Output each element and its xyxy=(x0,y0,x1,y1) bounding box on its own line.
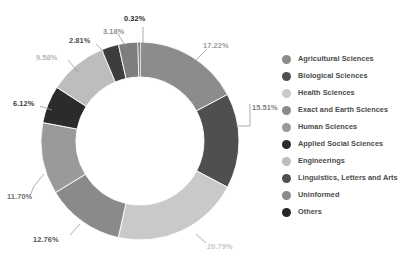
slice-label-health-sciences: 20.79% xyxy=(207,243,233,250)
leader-line-biological xyxy=(236,104,250,126)
slice-label-engineerings: 9.58% xyxy=(36,54,57,61)
legend-swatch-icon xyxy=(282,157,291,166)
donut-slice[interactable] xyxy=(138,42,140,77)
slice-label-human-sciences: 11.70% xyxy=(7,193,32,200)
legend-swatch-icon xyxy=(282,140,291,149)
legend-item-label: Agricultural Sciences xyxy=(298,54,374,64)
legend-item[interactable]: Health Sciences xyxy=(282,88,407,98)
slice-label-exact-and-earth-sciences: 12.76% xyxy=(33,236,59,243)
slice-label-others: 0.32% xyxy=(124,15,145,22)
legend-item-label: Health Sciences xyxy=(298,88,355,98)
donut-plot-area: 17.22% 15.51% 20.79% 12.76% 11.70% 6.12%… xyxy=(0,0,262,273)
slice-label-linguistics-letters-and-arts: 2.81% xyxy=(69,37,90,44)
legend-swatch-icon xyxy=(282,89,291,98)
slice-label-agricultural-sciences: 17.22% xyxy=(203,42,229,49)
legend-swatch-icon xyxy=(282,123,291,132)
legend-item[interactable]: Agricultural Sciences xyxy=(282,54,407,64)
legend-item[interactable]: Uninformed xyxy=(282,190,407,200)
legend-item[interactable]: Biological Sciences xyxy=(282,71,407,81)
legend-item-label: Linguistics, Letters and Arts xyxy=(298,173,398,183)
leader-line-health xyxy=(196,234,206,243)
legend-item[interactable]: Human Sciences xyxy=(282,122,407,132)
legend-item-label: Human Sciences xyxy=(298,122,357,132)
chart-legend: Agricultural SciencesBiological Sciences… xyxy=(282,54,407,224)
legend-item-label: Others xyxy=(298,207,322,217)
leader-line-exact-earth xyxy=(70,224,80,235)
legend-item[interactable]: Others xyxy=(282,207,407,217)
slice-label-uninformed: 3.18% xyxy=(103,28,124,35)
legend-swatch-icon xyxy=(282,106,291,115)
legend-item[interactable]: Linguistics, Letters and Arts xyxy=(282,173,407,183)
donut-slice-group xyxy=(41,42,239,240)
legend-item-label: Exact and Earth Sciences xyxy=(298,105,388,115)
leader-line-agricultural xyxy=(196,50,206,60)
donut-slice[interactable] xyxy=(197,95,239,188)
legend-swatch-icon xyxy=(282,208,291,217)
slice-label-applied-social-sciences: 6.12% xyxy=(13,100,34,107)
legend-item-label: Engineerings xyxy=(298,156,345,166)
legend-item-label: Uninformed xyxy=(298,190,339,200)
legend-swatch-icon xyxy=(282,55,291,64)
slice-label-biological-sciences: 15.51% xyxy=(252,104,278,111)
legend-item-label: Biological Sciences xyxy=(298,71,368,81)
legend-swatch-icon xyxy=(282,191,291,200)
donut-slice[interactable] xyxy=(140,42,227,111)
legend-item[interactable]: Exact and Earth Sciences xyxy=(282,105,407,115)
legend-swatch-icon xyxy=(282,174,291,183)
donut-slice[interactable] xyxy=(118,171,227,240)
donut-chart: 17.22% 15.51% 20.79% 12.76% 11.70% 6.12%… xyxy=(0,0,407,273)
legend-item[interactable]: Applied Social Sciences xyxy=(282,139,407,149)
legend-item-label: Applied Social Sciences xyxy=(298,139,383,149)
legend-swatch-icon xyxy=(282,72,291,81)
legend-item[interactable]: Engineerings xyxy=(282,156,407,166)
